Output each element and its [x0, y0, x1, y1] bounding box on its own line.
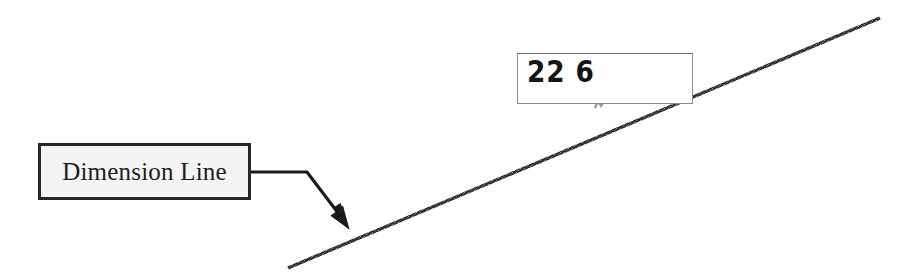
vector-graphics-layer: [0, 0, 910, 280]
dimension-value-box[interactable]: 22 6: [517, 53, 693, 104]
callout-label: Dimension Line: [62, 159, 227, 184]
callout-box-dimension-line[interactable]: Dimension Line: [38, 143, 251, 200]
drawing-canvas: Dimension Line 22 6: [0, 0, 910, 280]
leader-line: [251, 172, 350, 230]
dimension-value-text: 22 6: [527, 57, 595, 87]
